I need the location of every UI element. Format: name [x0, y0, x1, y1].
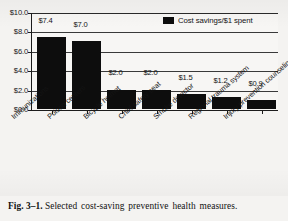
y-tick-label-6: $6.0 — [0, 48, 28, 56]
y-tick-label-4: $4.0 — [0, 67, 28, 75]
bar-value-label-poison-centers: $7.0 — [58, 21, 103, 29]
figure-caption-number: Fig. 3–1. — [8, 201, 43, 211]
legend: Cost savings/$1 spent — [163, 16, 253, 25]
legend-swatch-icon — [163, 17, 174, 24]
gridline-10 — [31, 13, 278, 14]
figure-caption-text: Selected cost-saving preventive health m… — [45, 201, 237, 211]
y-tick-label-2: $2.0 — [0, 87, 28, 95]
bar-injury-prevention-counseling[interactable] — [247, 100, 276, 109]
gridline-8 — [31, 32, 278, 33]
gridline-6 — [31, 52, 278, 53]
figure-caption: Fig. 3–1. Selected cost-saving preventiv… — [8, 200, 282, 212]
x-tick-mark-7 — [262, 111, 263, 114]
figure-page: $10.0 $8.0 $6.0 $4.0 $2.0 $0.0 — [0, 0, 288, 221]
y-tick-label-10: $10.0 — [0, 9, 28, 17]
legend-entry-label: Cost savings/$1 spent — [178, 16, 253, 25]
bar-chart-figure: $10.0 $8.0 $6.0 $4.0 $2.0 $0.0 — [0, 0, 288, 196]
y-tick-label-8: $8.0 — [0, 28, 28, 36]
